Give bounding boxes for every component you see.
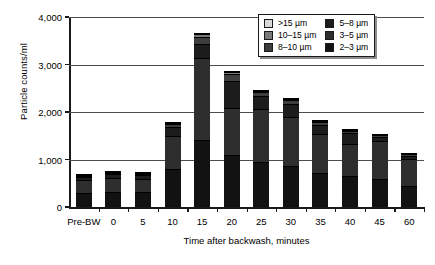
legend-item: >15 µm bbox=[264, 19, 316, 28]
bar-segment bbox=[105, 192, 121, 207]
y-tick-label: 4,000 bbox=[38, 12, 62, 23]
bar-segment bbox=[165, 169, 181, 207]
x-tick-label: 40 bbox=[345, 216, 356, 227]
bar-5 bbox=[135, 172, 151, 207]
x-tick-mark bbox=[335, 207, 336, 212]
bar-segment bbox=[372, 141, 388, 179]
legend-item: 3–5 µm bbox=[325, 31, 368, 40]
bar-segment bbox=[76, 180, 92, 193]
legend-label: 8–10 µm bbox=[278, 43, 312, 52]
bar-segment bbox=[135, 192, 151, 207]
bar-segment bbox=[342, 133, 358, 144]
bar-segment bbox=[165, 127, 181, 136]
bar-segment bbox=[312, 173, 328, 207]
legend-label: 3–5 µm bbox=[339, 31, 368, 40]
y-tick-mark bbox=[65, 206, 70, 207]
y-tick-mark bbox=[65, 159, 70, 160]
bar-10 bbox=[165, 122, 181, 207]
legend-item: 8–10 µm bbox=[264, 43, 316, 52]
bar-Pre-BW bbox=[76, 174, 92, 207]
bar-segment bbox=[342, 176, 358, 207]
bar-segment bbox=[135, 179, 151, 192]
bar-segment bbox=[253, 96, 269, 108]
bar-45 bbox=[372, 134, 388, 207]
x-tick-mark bbox=[306, 207, 307, 212]
x-tick-mark bbox=[217, 207, 218, 212]
bar-segment bbox=[372, 179, 388, 207]
legend-label: 5–8 µm bbox=[339, 19, 368, 28]
gridline bbox=[69, 112, 424, 113]
bar-segment bbox=[224, 74, 240, 81]
bar-35 bbox=[312, 120, 328, 207]
bar-segment bbox=[283, 117, 299, 166]
bar-segment bbox=[76, 193, 92, 207]
bar-segment bbox=[312, 134, 328, 173]
x-tick-mark bbox=[247, 207, 248, 212]
bar-segment bbox=[224, 155, 240, 207]
bar-segment bbox=[342, 144, 358, 175]
x-tick-mark bbox=[276, 207, 277, 212]
bar-segment bbox=[194, 44, 210, 59]
x-tick-label: 35 bbox=[315, 216, 326, 227]
x-tick-label: 60 bbox=[404, 216, 415, 227]
bar-segment bbox=[224, 108, 240, 155]
x-tick-mark bbox=[424, 207, 425, 212]
y-tick-label: 1,000 bbox=[38, 154, 62, 165]
legend-item: 10–15 µm bbox=[264, 31, 316, 40]
y-tick-mark bbox=[65, 16, 70, 17]
bar-segment bbox=[283, 166, 299, 207]
legend-swatch bbox=[264, 31, 273, 40]
bar-segment bbox=[224, 81, 240, 109]
legend-swatch bbox=[325, 19, 334, 28]
legend-swatch bbox=[264, 19, 273, 28]
legend-item: 2–3 µm bbox=[325, 43, 368, 52]
bar-25 bbox=[253, 90, 269, 207]
legend-swatch bbox=[325, 43, 334, 52]
legend-label: 2–3 µm bbox=[339, 43, 368, 52]
bar-60 bbox=[401, 153, 417, 207]
legend-swatch bbox=[325, 31, 334, 40]
y-tick-mark bbox=[65, 64, 70, 65]
legend-label: >15 µm bbox=[278, 19, 307, 28]
bar-segment bbox=[312, 125, 328, 135]
legend-label: 10–15 µm bbox=[278, 31, 316, 40]
bar-segment bbox=[253, 162, 269, 207]
legend-item: 5–8 µm bbox=[325, 19, 368, 28]
x-axis-title: Time after backwash, minutes bbox=[69, 235, 424, 246]
y-axis-title: Particle counts/ml bbox=[18, 12, 29, 152]
x-tick-mark bbox=[99, 207, 100, 212]
y-tick-mark bbox=[65, 111, 70, 112]
bar-segment bbox=[194, 58, 210, 139]
bar-segment bbox=[194, 140, 210, 207]
x-tick-label: 30 bbox=[286, 216, 297, 227]
x-tick-label: 45 bbox=[374, 216, 385, 227]
x-tick-label: 10 bbox=[167, 216, 178, 227]
bar-segment bbox=[401, 186, 417, 207]
x-tick-mark bbox=[365, 207, 366, 212]
particle-count-bar-chart: Particle counts/ml 01,0002,0003,0004,000… bbox=[0, 0, 435, 265]
x-tick-label: 15 bbox=[197, 216, 208, 227]
x-tick-mark bbox=[158, 207, 159, 212]
bar-segment bbox=[401, 159, 417, 186]
chart-legend: >15 µm5–8 µm10–15 µm3–5 µm8–10 µm2–3 µm bbox=[258, 14, 375, 57]
bar-segment bbox=[283, 104, 299, 117]
x-tick-label: Pre-BW bbox=[67, 216, 100, 227]
bar-30 bbox=[283, 98, 299, 207]
bar-0 bbox=[105, 171, 121, 207]
x-tick-mark bbox=[394, 207, 395, 212]
gridline bbox=[69, 65, 424, 66]
bar-segment bbox=[194, 37, 210, 44]
x-tick-label: 5 bbox=[140, 216, 145, 227]
bar-segment bbox=[253, 109, 269, 162]
y-tick-label: 0 bbox=[57, 202, 62, 213]
x-tick-mark bbox=[128, 207, 129, 212]
x-tick-label: 20 bbox=[226, 216, 237, 227]
bar-segment bbox=[105, 178, 121, 192]
bar-20 bbox=[224, 71, 240, 207]
bar-40 bbox=[342, 129, 358, 207]
bar-segment bbox=[165, 136, 181, 168]
x-tick-label: 25 bbox=[256, 216, 267, 227]
y-tick-label: 3,000 bbox=[38, 59, 62, 70]
bar-15 bbox=[194, 33, 210, 207]
legend-swatch bbox=[264, 43, 273, 52]
